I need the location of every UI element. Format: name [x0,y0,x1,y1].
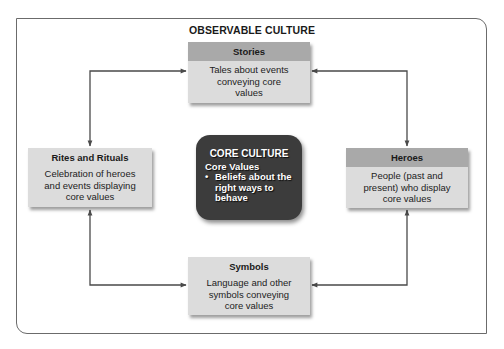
stories-line-3: values [192,87,306,99]
core-culture-box: CORE CULTURE Core Values • Beliefs about… [196,135,302,220]
stories-title: Stories [188,42,310,61]
symbols-line-1: Language and other [192,277,306,289]
heroes-description: People (past and present) who display co… [346,167,468,205]
core-bullet-line-3: behave [215,193,302,204]
stories-description: Tales about events conveying core values [188,61,310,99]
rites-description: Celebration of heroes and events display… [28,167,152,203]
stories-line-2: conveying core [192,76,306,88]
symbols-title: Symbols [188,257,310,276]
heroes-title: Heroes [346,148,468,167]
rites-and-rituals-box: Rites and Rituals Celebration of heroes … [28,148,152,207]
heroes-line-3: core values [350,193,464,205]
symbols-line-2: symbols conveying [192,289,306,301]
symbols-description: Language and other symbols conveying cor… [188,276,310,312]
observable-culture-title: OBSERVABLE CULTURE [0,24,504,36]
core-bullet-line-1: Beliefs about the [215,172,302,183]
heroes-line-1: People (past and [350,170,464,182]
core-values-list: • Beliefs about the right ways to behave [205,172,302,204]
core-culture-title: CORE CULTURE [205,148,302,160]
rites-line-1: Celebration of heroes [32,168,148,180]
core-values-bullet: • Beliefs about the right ways to behave [212,172,302,204]
rites-title: Rites and Rituals [28,148,152,167]
heroes-line-2: present) who display [350,182,464,194]
rites-line-3: core values [32,191,148,203]
stories-line-1: Tales about events [192,64,306,76]
bullet-icon: • [205,172,208,183]
stories-box: Stories Tales about events conveying cor… [188,42,310,103]
heroes-box: Heroes People (past and present) who dis… [346,148,468,208]
rites-line-2: and events displaying [32,180,148,192]
symbols-box: Symbols Language and other symbols conve… [188,257,310,315]
symbols-line-3: core values [192,300,306,312]
